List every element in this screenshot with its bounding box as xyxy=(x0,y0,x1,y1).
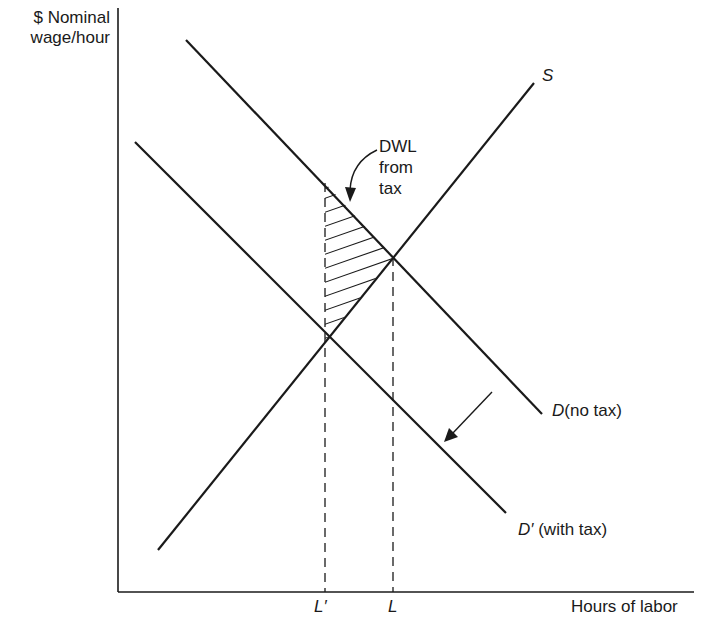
demand-tax-suffix: (with tax) xyxy=(538,520,607,539)
y-axis-label-line2: wage/hour xyxy=(8,28,110,48)
demand-no-tax-line xyxy=(186,40,542,414)
y-axis-label: $ Nominal wage/hour xyxy=(8,8,110,48)
demand-with-tax-line xyxy=(135,142,506,513)
demand-with-tax-label: D′ (with tax) xyxy=(518,520,607,540)
dwl-annotation-line1: DWL xyxy=(379,136,417,157)
dwl-annotation-line3: tax xyxy=(379,178,417,199)
dwl-annotation-line2: from xyxy=(379,157,417,178)
dwl-annotation: DWL from tax xyxy=(379,136,417,199)
demand-tax-symbol: D′ xyxy=(518,520,533,539)
dwl-pointer-arrow-icon xyxy=(345,150,377,202)
demand-shift-arrow-icon xyxy=(444,392,492,442)
demand-suffix: (no tax) xyxy=(564,401,622,420)
supply-line xyxy=(158,83,534,550)
labor-market-diagram xyxy=(0,0,717,623)
l-tick-label: L xyxy=(388,597,397,617)
demand-symbol: D xyxy=(552,401,564,420)
l-prime-tick-label: L′ xyxy=(314,597,327,617)
x-axis-label: Hours of labor xyxy=(571,597,678,617)
demand-no-tax-label: D(no tax) xyxy=(552,401,622,421)
supply-label: S xyxy=(542,66,553,86)
y-axis-label-line1: $ Nominal xyxy=(8,8,110,28)
